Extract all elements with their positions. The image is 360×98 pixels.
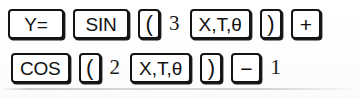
key-plus[interactable]: + — [291, 9, 321, 39]
key-open-paren[interactable]: ( — [79, 53, 101, 83]
keystroke-row-2: COS(2X,T,θ)−1 — [11, 50, 281, 86]
keystroke-row-1: Y=SIN(3X,T,θ)+ — [8, 6, 330, 42]
key-x-t-theta[interactable]: X,T,θ — [130, 53, 191, 83]
digit-2: 2 — [110, 57, 121, 80]
key-open-paren[interactable]: ( — [138, 9, 160, 39]
key-close-paren[interactable]: ) — [200, 53, 222, 83]
digit-3: 3 — [169, 13, 180, 36]
key-close-paren[interactable]: ) — [260, 9, 282, 39]
key-minus[interactable]: − — [231, 53, 261, 83]
keystroke-figure: Y=SIN(3X,T,θ)+ COS(2X,T,θ)−1 — [0, 0, 360, 98]
scan-artifact-streak — [0, 88, 360, 90]
key-x-t-theta[interactable]: X,T,θ — [190, 9, 251, 39]
key-sin[interactable]: SIN — [73, 9, 129, 39]
digit-1: 1 — [270, 57, 281, 80]
key-y-equals[interactable]: Y= — [8, 9, 64, 39]
key-cos[interactable]: COS — [11, 53, 70, 83]
